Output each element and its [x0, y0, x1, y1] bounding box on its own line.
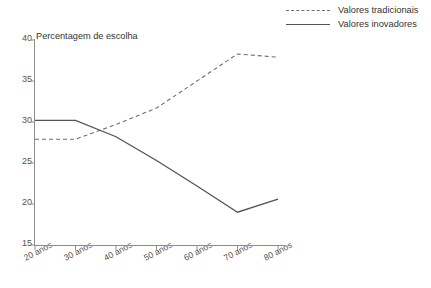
- series-line-traditional: [35, 54, 278, 139]
- series-line-innovative: [35, 120, 278, 212]
- x-axis-ticks: [35, 246, 278, 251]
- line-chart: Valores tradicionais Valores inovadores …: [0, 0, 431, 288]
- axis-lines: [34, 39, 286, 246]
- plot-area: [0, 0, 431, 288]
